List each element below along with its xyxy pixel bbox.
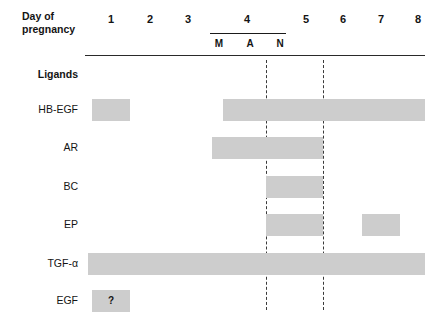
day4-sub-label-N: N <box>271 38 289 49</box>
bar-hb-egf-1 <box>92 99 130 121</box>
row-label-ligands-header: Ligands <box>0 68 78 80</box>
day-tick-label-7: 7 <box>371 13 391 25</box>
day-tick-label-6: 6 <box>333 13 353 25</box>
day-tick-label-1: 1 <box>101 13 121 25</box>
axis-title-line2: pregnancy <box>22 23 92 36</box>
bar-ar-1 <box>212 137 323 159</box>
day-tick-label-3: 3 <box>178 13 198 25</box>
bar-egf-1: ? <box>92 290 130 312</box>
day-tick-label-8: 8 <box>408 13 428 25</box>
bar-annotation-egf: ? <box>92 290 130 312</box>
day-tick-label-5: 5 <box>296 13 316 25</box>
bar-hb-egf-2 <box>223 99 425 121</box>
bar-bc-1 <box>266 176 323 198</box>
row-label-bc: BC <box>0 180 78 192</box>
row-label-ar: AR <box>0 141 78 153</box>
day4-sub-label-A: A <box>241 38 259 49</box>
day4-bracket <box>210 33 286 34</box>
bar-ep-2 <box>362 214 400 236</box>
day-tick-label-2: 2 <box>140 13 160 25</box>
bar-ep-1 <box>266 214 323 236</box>
ligand-expression-figure: Day of pregnancy 12345678MANLigandsHB-EG… <box>0 0 446 330</box>
axis-title-line1: Day of <box>22 10 92 23</box>
day-tick-label-4: 4 <box>237 13 257 25</box>
axis-horizontal-rule <box>85 55 425 56</box>
day4-sub-label-M: M <box>210 38 228 49</box>
row-label-egf: EGF <box>0 294 78 306</box>
bar-tgf-alpha-1 <box>88 253 425 275</box>
row-label-ep: EP <box>0 218 78 230</box>
row-label-hb-egf: HB-EGF <box>0 103 78 115</box>
axis-title: Day of pregnancy <box>22 10 92 36</box>
row-label-tgf-alpha: TGF-α <box>0 257 78 269</box>
